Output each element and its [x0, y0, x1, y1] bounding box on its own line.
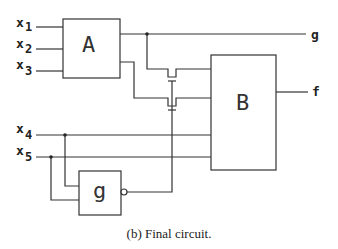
block-g-label: g — [93, 178, 106, 203]
svg-text:x: x — [16, 15, 24, 30]
svg-text:5: 5 — [25, 150, 32, 164]
figure-caption: (b) Final circuit. — [0, 226, 338, 242]
wire-branch-to-b1 — [147, 34, 211, 77]
svg-text:x: x — [16, 143, 24, 158]
svg-text:2: 2 — [25, 42, 32, 56]
circuit-diagram: x 1 x 2 x 3 x 4 x 5 A B g — [0, 0, 338, 249]
input-label-x2: x 2 — [16, 36, 32, 56]
svg-text:1: 1 — [25, 20, 32, 34]
output-label-g: g — [311, 27, 319, 42]
inverter-bubble — [121, 189, 127, 195]
svg-text:x: x — [16, 36, 24, 51]
output-label-f: f — [312, 84, 320, 99]
block-b-label: B — [236, 90, 249, 115]
svg-text:4: 4 — [25, 128, 32, 142]
block-a-label: A — [82, 32, 95, 57]
input-label-x4: x 4 — [16, 121, 32, 142]
wire-x4-to-g — [65, 135, 79, 186]
input-label-x5: x 5 — [16, 143, 32, 164]
svg-text:x: x — [16, 57, 24, 72]
svg-text:x: x — [16, 121, 24, 136]
svg-text:3: 3 — [25, 64, 32, 78]
input-label-x1: x 1 — [16, 15, 32, 34]
input-label-x3: x 3 — [16, 57, 32, 78]
